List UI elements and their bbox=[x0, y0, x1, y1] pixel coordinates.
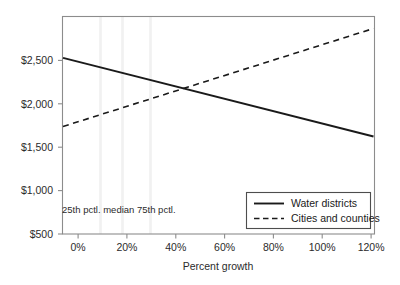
chart-background bbox=[0, 0, 400, 285]
x-axis-title: Percent growth bbox=[183, 260, 254, 272]
legend: Water districts Cities and counties bbox=[247, 193, 380, 229]
y-tick-label-1000: $1,000 bbox=[21, 184, 53, 196]
x-tick-label-100: 100% bbox=[309, 241, 336, 253]
legend-label-cities-and-counties: Cities and counties bbox=[291, 212, 380, 224]
y-tick-label-2500: $2,500 bbox=[21, 54, 53, 66]
y-tick-label-1500: $1,500 bbox=[21, 141, 53, 153]
x-tick-label-40: 40% bbox=[165, 241, 186, 253]
chart-figure: $500 $1,000 $1,500 $2,000 $2,500 0% 20% … bbox=[0, 0, 400, 285]
legend-label-water-districts: Water districts bbox=[291, 197, 357, 209]
y-tick-label-500: $500 bbox=[30, 228, 54, 240]
y-tick-label-2000: $2,000 bbox=[21, 98, 53, 110]
percentile-annotation: 25th pctl. median 75th pctl. bbox=[62, 204, 176, 215]
line-chart: $500 $1,000 $1,500 $2,000 $2,500 0% 20% … bbox=[0, 0, 400, 285]
x-tick-label-120: 120% bbox=[358, 241, 385, 253]
x-tick-label-0: 0% bbox=[71, 241, 86, 253]
x-tick-label-60: 60% bbox=[214, 241, 235, 253]
x-tick-label-20: 20% bbox=[116, 241, 137, 253]
x-tick-label-80: 80% bbox=[263, 241, 284, 253]
